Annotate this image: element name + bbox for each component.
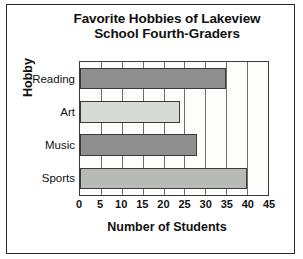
bar-row: Sports	[80, 162, 268, 195]
x-axis-title: Number of Students	[47, 220, 287, 234]
x-tick-30: 30	[200, 198, 212, 210]
x-tick-25: 25	[178, 198, 190, 210]
plot-area: ReadingArtMusicSports	[79, 61, 269, 196]
bar-row: Art	[80, 95, 268, 128]
bar-sports	[80, 168, 247, 189]
chart-container: Favorite Hobbies of Lakeview School Four…	[6, 4, 295, 254]
bar-row: Reading	[80, 62, 268, 95]
chart-title: Favorite Hobbies of Lakeview School Four…	[47, 11, 287, 41]
y-axis-label-reading: Reading	[32, 73, 75, 85]
x-axis-tick-labels: 051015202530354045	[79, 198, 269, 214]
x-tick-15: 15	[136, 198, 148, 210]
x-tick-10: 10	[115, 198, 127, 210]
x-tick-40: 40	[242, 198, 254, 210]
x-tick-5: 5	[97, 198, 103, 210]
y-axis-label-music: Music	[45, 139, 75, 151]
chart-title-line-1: Favorite Hobbies of Lakeview	[47, 11, 287, 26]
x-tick-35: 35	[221, 198, 233, 210]
bar-reading	[80, 68, 226, 89]
bar-music	[80, 134, 197, 155]
x-tick-0: 0	[76, 198, 82, 210]
x-tick-45: 45	[263, 198, 275, 210]
y-axis-label-sports: Sports	[42, 172, 75, 184]
chart-title-line-2: School Fourth-Graders	[47, 26, 287, 41]
x-tick-20: 20	[157, 198, 169, 210]
bar-art	[80, 101, 180, 122]
y-axis-label-art: Art	[60, 106, 75, 118]
bar-row: Music	[80, 129, 268, 162]
